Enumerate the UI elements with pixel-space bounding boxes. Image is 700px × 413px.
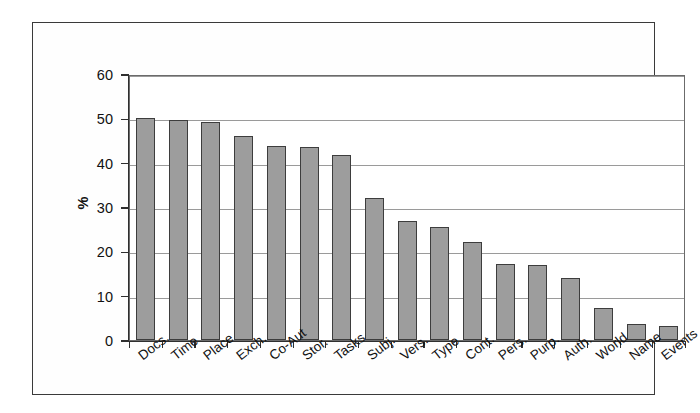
bar[interactable]: [496, 264, 515, 340]
bar-slot: [163, 76, 196, 340]
y-axis-tick-label: 10: [73, 290, 113, 304]
y-axis-tick: [121, 119, 129, 120]
bar-slot: [261, 76, 294, 340]
bar-slot: [653, 76, 686, 340]
y-axis-tick-label: 50: [73, 112, 113, 126]
bar-slot: [457, 76, 490, 340]
bar[interactable]: [561, 278, 580, 340]
bar-series: [130, 76, 684, 340]
bar-slot: [228, 76, 261, 340]
bar-slot: [359, 76, 392, 340]
y-axis-tick: [121, 74, 129, 75]
bar[interactable]: [201, 122, 220, 340]
bar[interactable]: [332, 155, 351, 340]
bar[interactable]: [365, 198, 384, 340]
plot-area: [129, 75, 685, 341]
bar[interactable]: [430, 227, 449, 340]
bar-slot: [294, 76, 327, 340]
y-axis-tick: [121, 252, 129, 253]
chart-figure-frame: % 6050403020100 Docs.TimePlaceExch.Co-Au…: [32, 22, 655, 395]
bar-slot: [588, 76, 621, 340]
bar-slot: [424, 76, 457, 340]
bar-slot: [555, 76, 588, 340]
y-axis-tick-label: 60: [73, 68, 113, 82]
x-axis-tick: [129, 341, 130, 348]
y-axis-tick-label: 40: [73, 157, 113, 171]
bar-slot: [392, 76, 425, 340]
bar[interactable]: [267, 146, 286, 340]
bar[interactable]: [528, 265, 547, 340]
bar[interactable]: [136, 118, 155, 340]
bar[interactable]: [594, 308, 613, 340]
bar-slot: [490, 76, 523, 340]
bar[interactable]: [463, 242, 482, 340]
bar[interactable]: [169, 120, 188, 340]
bar[interactable]: [234, 136, 253, 340]
bar-slot: [130, 76, 163, 340]
y-axis-tick: [121, 296, 129, 297]
bar-slot: [195, 76, 228, 340]
y-axis-tick: [121, 207, 129, 208]
y-axis-tick-label: 30: [73, 201, 113, 215]
y-axis-tick-label: 20: [73, 245, 113, 259]
bar[interactable]: [398, 221, 417, 340]
y-axis-tick: [121, 163, 129, 164]
bar-slot: [326, 76, 359, 340]
y-axis-tick-label: 0: [73, 334, 113, 348]
bar-slot: [522, 76, 555, 340]
bar-slot: [621, 76, 654, 340]
bar[interactable]: [300, 147, 319, 340]
